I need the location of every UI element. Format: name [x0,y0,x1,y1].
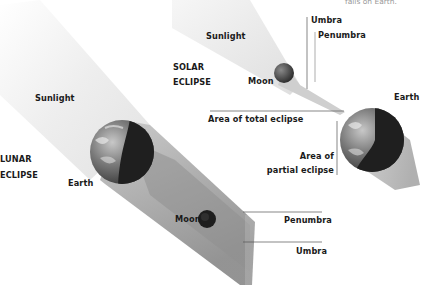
solar-eclipse-title-line1: SOLAR [173,62,204,72]
solar-earth-label: Earth [394,92,419,102]
solar-moon-label: Moon [248,76,274,86]
solar-partial-eclipse-label-line2: partial eclipse [260,165,334,175]
lunar-sunlight-label: Sunlight [35,93,75,103]
top-caption: falls on Earth. [345,0,397,6]
solar-eclipse-title-line2: ECLIPSE [173,77,211,87]
diagram-graphics [0,0,432,285]
solar-penumbra-label: Penumbra [318,30,366,40]
solar-earth-globe [340,108,404,172]
solar-umbra-label: Umbra [311,15,342,25]
solar-total-eclipse-label: Area of total eclipse [208,114,303,124]
lunar-eclipse-title-line1: LUNAR [0,154,32,164]
lunar-penumbra-label: Penumbra [284,215,332,225]
lunar-earth-label: Earth [68,178,93,188]
solar-moon [274,63,294,83]
solar-partial-eclipse-label-line1: Area of [290,151,334,161]
eclipse-diagram: falls on Earth. SOLAR ECLIPSE Sunlight M… [0,0,432,285]
lunar-moon-label: Moon [175,214,201,224]
solar-sunlight-label: Sunlight [206,31,246,41]
lunar-eclipse-title-line2: ECLIPSE [0,170,38,180]
lunar-umbra-label: Umbra [296,246,327,256]
